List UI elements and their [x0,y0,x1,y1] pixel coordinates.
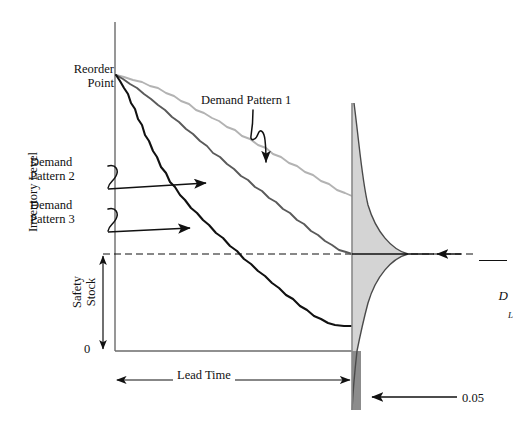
mean-demand-symbol: D [499,288,508,303]
mean-demand-symbol-wrap: D [479,260,508,318]
reorder-point-label: Reorder Point [30,62,114,90]
demand-pattern-1-label: Demand Pattern 1 [201,93,291,107]
overbar-glyph [479,260,507,261]
demand-pattern-2-pointer-arrow [108,183,206,189]
lead-time-label: Lead Time [173,368,235,382]
demand-pattern-2-squiggle [108,166,117,188]
demand-pattern-3-squiggle [108,209,117,231]
safety-stock-label: Safety Stock [70,252,98,332]
demand-pattern-2-label: Demand Pattern 2 [30,155,108,183]
demand-pattern-3-label: Demand Pattern 3 [30,198,108,226]
demand-pattern-1-pointer-arrow [251,110,266,162]
demand-pattern-3-curve [116,75,352,326]
origin-zero-label: 0 [84,342,90,356]
distribution-body-fill [352,103,408,351]
y-axis-label: Inventory Level [26,137,40,247]
tail-probability-label: 0.05 [462,391,484,405]
mean-demand-label: D L [466,245,513,334]
demand-pattern-3-pointer-arrow [108,228,190,232]
mean-demand-subscript: L [508,310,513,320]
